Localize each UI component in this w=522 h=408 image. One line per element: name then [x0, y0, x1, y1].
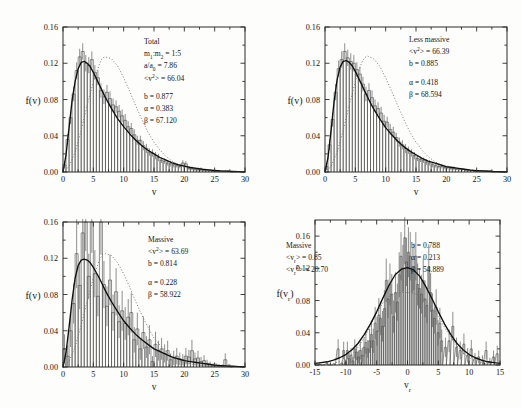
x-tick-label: 15	[150, 175, 158, 184]
x-tick-label: 0	[61, 175, 65, 184]
y-tick-label: 0.12	[44, 254, 58, 263]
annotation-line: α = 0.418	[409, 78, 438, 87]
annotation-block: Massive<vr> = 0.85<vr2> = 20.70b = 0.788…	[286, 241, 444, 276]
annotation-line: α = 0.383	[144, 104, 173, 113]
y-tick-label: 0.04	[44, 327, 58, 336]
x-tick-label: 10	[465, 368, 473, 377]
y-tick-label: 0.12	[44, 59, 58, 68]
annotation-line: α = 0.213	[411, 253, 440, 262]
annotation-line: <v2> = 66.39	[409, 46, 449, 56]
figure-container: 0510152025300.000.040.080.120.16vf(v)Tot…	[0, 0, 522, 408]
histogram-series	[315, 217, 498, 365]
plot-panel-bottom-left: 0510152025300.000.040.080.120.16vf(v)Mas…	[0, 204, 261, 408]
annotation-line: <v2> = 66.04	[144, 73, 184, 83]
y-tick-label: 0.00	[306, 168, 320, 177]
x-tick-label: 30	[241, 370, 249, 379]
x-tick-label: 5	[91, 370, 95, 379]
y-axis-title: f(v)	[288, 95, 303, 107]
x-tick-label: -5	[373, 368, 380, 377]
annotation-line: b = 0.885	[409, 59, 438, 68]
plot-panel-top-left: 0510152025300.000.040.080.120.16vf(v)Tot…	[0, 0, 261, 204]
x-tick-label: 25	[473, 175, 481, 184]
x-tick-label: 5	[353, 175, 357, 184]
x-tick-label: 20	[442, 175, 450, 184]
x-tick-label: 30	[503, 175, 511, 184]
annotation-line: β = 58.922	[148, 290, 181, 299]
x-tick-label: 20	[180, 175, 188, 184]
y-tick-label: 0.00	[44, 168, 58, 177]
y-tick-label: 0.08	[306, 96, 320, 105]
x-tick-label: -15	[310, 368, 321, 377]
x-axis-title: v	[152, 382, 157, 392]
y-tick-label: 0.08	[44, 96, 58, 105]
plot-panel-top-right: 0510152025300.000.040.080.120.16vf(v)Les…	[261, 0, 522, 204]
x-tick-label: 10	[120, 370, 128, 379]
x-tick-label: 20	[180, 370, 188, 379]
annotation-line: b = 0.788	[411, 241, 440, 250]
annotation-line: Massive	[286, 241, 312, 250]
plot-panel-bottom-right: -15-10-50510150.000.040.080.120.16vrf(vr…	[261, 204, 522, 408]
plot-area-top-right: 0510152025300.000.040.080.120.16vf(v)Les…	[261, 0, 522, 204]
plot-area-bottom-left: 0510152025300.000.040.080.120.16vf(v)Mas…	[0, 204, 261, 408]
annotation-line: <v2> = 63.69	[148, 246, 188, 256]
y-tick-label: 0.16	[306, 23, 320, 32]
y-tick-label: 0.04	[296, 329, 310, 338]
annotation-block: Totalm1:m2 = 1:5a/a0 = 7.86<v2> = 66.04b…	[144, 37, 184, 125]
x-axis-title: v	[414, 187, 419, 197]
x-tick-label: 25	[211, 175, 219, 184]
x-tick-label: 15	[496, 368, 504, 377]
x-tick-label: 5	[91, 175, 95, 184]
x-tick-label: 10	[120, 175, 128, 184]
x-axis-title: vr	[404, 380, 412, 393]
x-tick-label: 30	[241, 175, 249, 184]
y-tick-label: 0.00	[44, 363, 58, 372]
annotation-line: b = 0.814	[148, 259, 177, 268]
annotation-line: a/a0 = 7.86	[144, 61, 177, 72]
y-tick-label: 0.08	[44, 291, 58, 300]
x-tick-label: 0	[323, 175, 327, 184]
annotation-line: b = 0.877	[144, 92, 173, 101]
annotation-line: <vr2> = 20.70	[286, 264, 328, 276]
x-tick-label: 15	[412, 175, 420, 184]
annotation-line: m1:m2 = 1:5	[144, 49, 181, 60]
annotation-line: β = 67.120	[144, 116, 177, 125]
x-tick-label: 0	[61, 370, 65, 379]
y-tick-label: 0.00	[296, 361, 310, 370]
annotation-block: Massive<v2> = 63.69b = 0.814α = 0.228β =…	[148, 235, 188, 299]
annotation-line: <vr> = 0.85	[286, 253, 322, 264]
y-tick-label: 0.12	[306, 59, 320, 68]
x-tick-label: 5	[436, 368, 440, 377]
x-tick-label: 25	[211, 370, 219, 379]
y-tick-label: 0.16	[44, 23, 58, 32]
annotation-block: Less massive<v2> = 66.39b = 0.885α = 0.4…	[409, 35, 450, 99]
y-axis-title: f(vr)	[276, 288, 293, 302]
annotation-line: β = 54.889	[411, 265, 444, 274]
x-tick-label: -10	[340, 368, 351, 377]
y-tick-label: 0.04	[306, 132, 320, 141]
plot-area-bottom-right: -15-10-50510150.000.040.080.120.16vrf(vr…	[261, 204, 522, 408]
annotation-line: Massive	[148, 235, 174, 244]
y-axis-title: f(v)	[26, 95, 41, 107]
y-tick-label: 0.16	[44, 218, 58, 227]
x-axis-title: v	[152, 187, 157, 197]
plot-area-top-left: 0510152025300.000.040.080.120.16vf(v)Tot…	[0, 0, 261, 204]
x-tick-label: 0	[405, 368, 409, 377]
y-tick-label: 0.04	[44, 132, 58, 141]
y-tick-label: 0.08	[296, 297, 310, 306]
x-tick-label: 15	[150, 370, 158, 379]
annotation-line: β = 68.594	[409, 90, 442, 99]
x-tick-label: 10	[382, 175, 390, 184]
annotation-line: Total	[144, 37, 160, 46]
y-axis-title: f(v)	[26, 290, 41, 302]
error-bars	[320, 217, 498, 365]
annotation-line: α = 0.228	[148, 278, 177, 287]
annotation-line: Less massive	[409, 35, 450, 44]
y-tick-label: 0.16	[296, 232, 310, 241]
